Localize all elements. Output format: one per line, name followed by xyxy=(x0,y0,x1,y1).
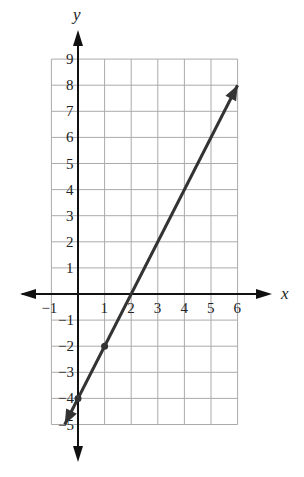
data-point xyxy=(101,343,108,350)
x-tick-label: 5 xyxy=(207,300,215,316)
y-axis-label: y xyxy=(71,5,81,24)
x-tick-label: 1 xyxy=(101,300,109,316)
y-tick-label: −2 xyxy=(58,338,74,354)
y-tick-label: 8 xyxy=(66,77,74,93)
y-tick-label: 1 xyxy=(66,260,74,276)
y-axis-up-arrow-icon xyxy=(73,30,83,46)
y-tick-label: 5 xyxy=(66,156,74,172)
x-axis-left-arrow-icon xyxy=(20,289,36,299)
y-tick-label: 4 xyxy=(66,182,74,198)
y-tick-label: 6 xyxy=(66,129,74,145)
data-line xyxy=(65,85,238,424)
data-point xyxy=(75,395,82,402)
x-tick-label: 3 xyxy=(154,300,162,316)
y-tick-label: 3 xyxy=(66,208,74,224)
grid xyxy=(51,59,237,424)
y-tick-label: 7 xyxy=(66,103,74,119)
y-tick-label: 9 xyxy=(66,51,74,67)
y-axis-down-arrow-icon xyxy=(73,446,83,462)
x-tick-label: 6 xyxy=(234,300,242,316)
y-tick-label: −4 xyxy=(58,390,74,406)
line-arrow-up-icon xyxy=(225,85,237,101)
y-tick-label: 2 xyxy=(66,234,74,250)
x-axis-right-arrow-icon xyxy=(256,289,272,299)
x-tick-label: −1 xyxy=(41,300,57,316)
y-tick-label: −3 xyxy=(58,364,74,380)
coordinate-plane: −1123456987654321−1−2−3−4−5 x y xyxy=(0,0,304,477)
y-tick-label: −1 xyxy=(58,312,74,328)
x-tick-label: 4 xyxy=(180,300,188,316)
x-axis-label: x xyxy=(280,284,289,303)
line-segment xyxy=(65,85,238,424)
